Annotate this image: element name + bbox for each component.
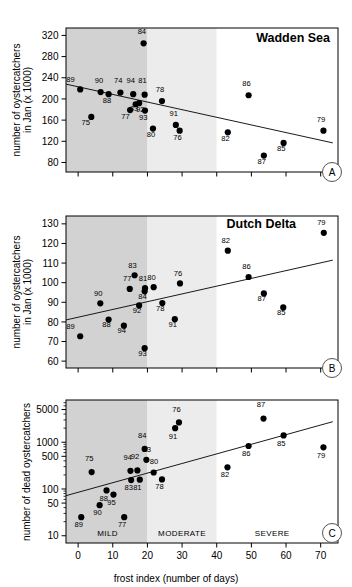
panel-a-title: Wadden Sea xyxy=(256,31,331,45)
band-severe xyxy=(217,400,338,543)
panel-a-svg: 80120160200240280320 8975908874778394929… xyxy=(0,0,352,196)
y-tick-label: 80 xyxy=(47,157,59,168)
panel-a-ylabel: number of oystercatchersin Jan (x 1000) xyxy=(11,44,34,157)
data-point-label-85: 85 xyxy=(277,144,285,153)
data-point-80 xyxy=(151,469,157,475)
y-tick-label: 120 xyxy=(42,136,59,147)
data-point-90 xyxy=(97,300,103,306)
band-mild xyxy=(66,216,147,368)
y-axis-label-line: in Jan (x 1000) xyxy=(22,259,33,325)
panel-b-bands xyxy=(66,216,338,368)
figure-root: 80120160200240280320 8975908874778394929… xyxy=(0,0,352,587)
data-point-94 xyxy=(127,468,133,474)
panel-a-xaxis xyxy=(78,172,321,177)
y-tick-label: 50 xyxy=(47,498,59,509)
data-point-label-88: 88 xyxy=(102,320,110,329)
data-point-label-78: 78 xyxy=(156,85,164,94)
y-tick-label: 1000 xyxy=(36,437,59,448)
data-point-label-78: 78 xyxy=(156,304,164,313)
y-axis-label-line: number of dead oystercatchers xyxy=(21,403,32,541)
y-tick-label: 70 xyxy=(47,336,59,347)
data-point-label-87: 87 xyxy=(258,294,266,303)
y-tick-label: 160 xyxy=(42,115,59,126)
data-point-79 xyxy=(321,230,327,236)
data-point-79 xyxy=(320,444,326,450)
data-point-label-90: 90 xyxy=(94,289,102,298)
data-point-label-76: 76 xyxy=(174,269,182,278)
data-point-label-93: 93 xyxy=(143,445,151,454)
y-tick-label: 280 xyxy=(42,51,59,62)
data-point-label-77: 77 xyxy=(121,112,129,121)
band-severe xyxy=(217,216,338,368)
data-point-84 xyxy=(141,40,147,46)
y-tick-label: 10 xyxy=(47,530,59,541)
y-tick-label: 90 xyxy=(47,297,59,308)
panel-c-bands xyxy=(66,400,338,543)
y-tick-label: 120 xyxy=(42,238,59,249)
data-point-82 xyxy=(225,248,231,254)
y-tick-label: 500 xyxy=(42,451,59,462)
data-point-label-79: 79 xyxy=(317,115,325,124)
panel-a-yaxis: 80120160200240280320 xyxy=(42,30,66,168)
data-point-86 xyxy=(246,274,252,280)
data-point-label-75: 75 xyxy=(85,454,93,463)
data-point-label-90: 90 xyxy=(95,76,103,85)
data-point-94 xyxy=(130,91,136,97)
data-point-label-83: 83 xyxy=(128,261,136,270)
panel-b-dutch-delta: 60708090100110120130 8990889477839284819… xyxy=(0,196,352,392)
band-label-mild: MILD xyxy=(97,529,118,538)
band-label-severe: SEVERE xyxy=(255,529,290,538)
data-point-label-79: 79 xyxy=(317,218,325,227)
data-point-91 xyxy=(173,122,179,128)
panel-c-dead-oystercatchers: 105010050010005000 010203040506070 89759… xyxy=(0,392,352,587)
data-point-label-81: 81 xyxy=(133,483,141,492)
data-point-label-82: 82 xyxy=(221,134,229,143)
data-point-label-80: 80 xyxy=(147,130,155,139)
band-moderate xyxy=(147,28,216,172)
data-point-label-80: 80 xyxy=(150,457,158,466)
data-point-label-78: 78 xyxy=(155,482,163,491)
data-point-label-85: 85 xyxy=(277,439,285,448)
y-tick-label: 100 xyxy=(42,484,59,495)
y-tick-label: 110 xyxy=(43,258,59,269)
data-point-76 xyxy=(177,280,183,286)
panel-b-letter-badge: B xyxy=(323,359,342,378)
x-tick-label: 30 xyxy=(177,550,189,561)
data-point-label-89: 89 xyxy=(66,322,74,331)
data-point-93 xyxy=(143,457,149,463)
panel-b-svg: 60708090100110120130 8990889477839284819… xyxy=(0,196,352,392)
panel-b-title: Dutch Delta xyxy=(227,217,298,231)
panel-b-xaxis xyxy=(78,368,321,373)
data-point-label-89: 89 xyxy=(66,75,74,84)
data-point-91 xyxy=(172,425,178,431)
x-axis-label: frost index (number of days) xyxy=(114,573,239,584)
data-point-label-93: 93 xyxy=(138,349,146,358)
data-point-label-87: 87 xyxy=(258,157,266,166)
y-axis-label: number of oystercatchersin Jan (x 1000) xyxy=(11,44,34,157)
x-tick-label: 20 xyxy=(142,550,154,561)
data-point-78 xyxy=(159,98,165,104)
data-point-label-79: 79 xyxy=(317,451,325,460)
panel-b-yaxis: 60708090100110120130 xyxy=(42,218,66,366)
y-axis-label: number of oystercatchersin Jan (x 1000) xyxy=(11,236,34,349)
y-tick-label: 240 xyxy=(42,72,59,83)
data-point-86 xyxy=(246,92,252,98)
x-tick-label: 60 xyxy=(280,550,292,561)
panel-a-letter: A xyxy=(329,167,336,178)
band-moderate xyxy=(147,216,216,368)
data-point-95 xyxy=(110,491,116,497)
data-point-76 xyxy=(176,419,182,425)
panel-c-yaxis: 105010050010005000 xyxy=(36,403,66,542)
band-label-moderate: MODERATE xyxy=(158,529,206,538)
data-point-81 xyxy=(142,92,148,98)
data-point-label-90: 90 xyxy=(93,508,101,517)
data-point-79 xyxy=(320,128,326,134)
y-tick-label: 60 xyxy=(47,356,59,367)
data-point-label-83: 83 xyxy=(124,483,132,492)
data-point-75 xyxy=(89,469,95,475)
data-point-label-94: 94 xyxy=(118,326,126,335)
data-point-90 xyxy=(98,89,104,95)
panel-a-letter-badge: A xyxy=(323,163,342,182)
data-point-80 xyxy=(151,284,157,290)
panel-a-wadden-sea: 80120160200240280320 8975908874778394929… xyxy=(0,0,352,196)
